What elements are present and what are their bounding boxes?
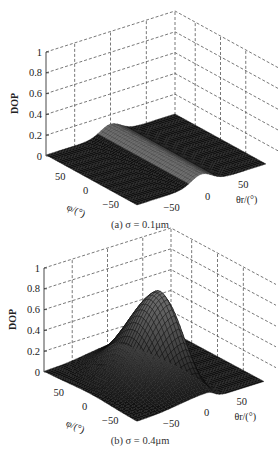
- z-tick-label: 0: [35, 367, 40, 378]
- chart-panel-a: 00.20.40.60.81DOP500−50φ/(°)−50050θr/(°)…: [0, 0, 280, 230]
- phi-tick-label: 0: [83, 185, 88, 196]
- z-tick-label: 0.6: [27, 304, 40, 315]
- plot-group: 00.20.40.60.81DOP500−50φ/(°)−50050θr/(°): [9, 11, 278, 220]
- phi-tick-label: 50: [53, 387, 64, 398]
- theta-axis-label: θr/(°): [236, 194, 258, 206]
- surface-plot-a: 00.20.40.60.81DOP500−50φ/(°)−50050θr/(°): [0, 0, 280, 230]
- theta-axis-label: θr/(°): [234, 411, 256, 423]
- z-tick-label: 0.8: [27, 283, 40, 294]
- z-tick-label: 1: [35, 263, 40, 274]
- phi-axis-label: φ/(°): [64, 417, 86, 436]
- phi-tick-label: −50: [102, 415, 118, 426]
- caption-b: (b) σ = 0.4μm: [0, 435, 280, 446]
- theta-tick-label: −50: [163, 202, 179, 213]
- z-tick-label: 0.8: [29, 67, 42, 78]
- phi-tick-label: 50: [55, 171, 66, 182]
- chart-panel-b: 00.20.40.60.81DOP500−50φ/(°)−50050θr/(°)…: [0, 216, 280, 459]
- theta-tick-label: 50: [237, 396, 248, 407]
- z-gridline: [46, 32, 278, 89]
- theta-tick-label: 50: [238, 179, 249, 190]
- z-tick-label: 0.4: [27, 325, 41, 336]
- z-axis-label: DOP: [9, 93, 20, 114]
- z-tick-label: 0.6: [29, 88, 42, 99]
- z-tick-label: 0.2: [29, 130, 42, 141]
- surface-mesh: [46, 114, 266, 205]
- z-tick-label: 0.2: [27, 346, 40, 357]
- phi-tick-label: 0: [82, 401, 87, 412]
- theta-tick-label: 0: [205, 191, 210, 202]
- z-gridline: [46, 11, 278, 68]
- z-gridline: [44, 228, 276, 284]
- theta-tick-label: 0: [204, 407, 209, 418]
- z-tick-label: 1: [37, 47, 42, 58]
- z-tick-label: 0: [37, 151, 42, 162]
- z-axis-label: DOP: [7, 309, 18, 330]
- theta-tick-label: −50: [163, 418, 179, 429]
- phi-tick-label: −50: [103, 199, 119, 210]
- surface-mesh: [44, 291, 264, 422]
- z-tick-label: 0.4: [29, 109, 43, 120]
- surface-plot-b: 00.20.40.60.81DOP500−50φ/(°)−50050θr/(°): [0, 216, 280, 459]
- z-gridline: [46, 53, 278, 110]
- plot-group: 00.20.40.60.81DOP500−50φ/(°)−50050θr/(°): [7, 228, 276, 436]
